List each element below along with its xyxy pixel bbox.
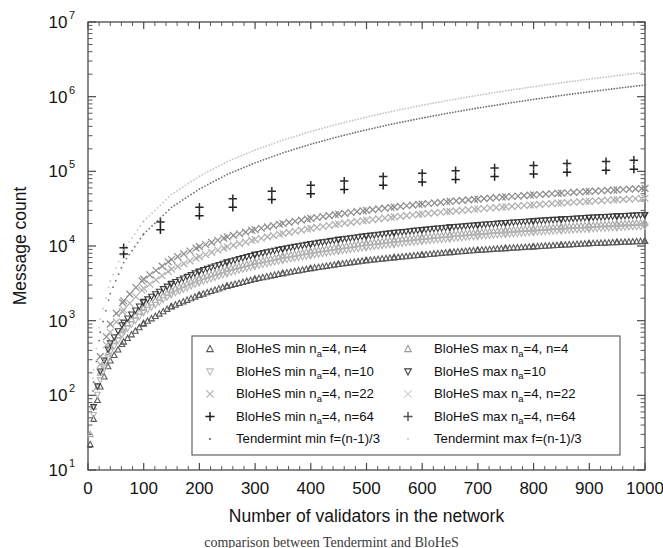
marker-dot xyxy=(639,72,641,74)
marker-dot xyxy=(405,120,407,122)
y-tick-label-group: 104 xyxy=(49,233,76,256)
y-tick-label-mantissa: 10 xyxy=(49,312,68,331)
marker-dot xyxy=(586,91,588,93)
marker-dot xyxy=(572,93,574,95)
marker-dot xyxy=(516,88,518,90)
marker-dot xyxy=(352,132,354,134)
marker-dot xyxy=(315,129,317,131)
marker-dot xyxy=(594,90,596,92)
marker-dot xyxy=(611,75,613,77)
marker-dot xyxy=(115,267,117,269)
legend-label: BloHeS min na=4, n=64 xyxy=(236,409,374,427)
marker-dot xyxy=(137,242,139,244)
marker-dot xyxy=(563,94,565,96)
marker-dot xyxy=(128,254,130,256)
marker-dot xyxy=(246,153,248,155)
marker-dot xyxy=(327,126,329,128)
x-tick-label: 100 xyxy=(130,479,158,498)
marker-dot xyxy=(449,112,451,114)
marker-dot xyxy=(597,90,599,92)
marker-dot xyxy=(276,154,278,156)
marker-dot xyxy=(382,125,384,127)
marker-dot xyxy=(154,210,156,212)
marker-dot xyxy=(572,80,574,82)
marker-dot xyxy=(513,101,515,103)
marker-dot xyxy=(260,160,262,162)
y-tick-label-exponent: 4 xyxy=(69,233,75,245)
marker-dot xyxy=(157,207,159,209)
marker-dot xyxy=(102,321,104,323)
legend-entry-9[interactable]: Tendermint max f=(n-1)/3 xyxy=(407,431,582,446)
marker-dot xyxy=(112,286,114,288)
marker-dot xyxy=(349,120,351,122)
marker-dot xyxy=(619,74,621,76)
marker-dot xyxy=(343,134,345,136)
marker-dot xyxy=(524,87,526,89)
marker-dot xyxy=(583,79,585,81)
marker-dot xyxy=(577,92,579,94)
marker-dot xyxy=(318,141,320,143)
x-tick-label: 900 xyxy=(575,479,603,498)
marker-dot xyxy=(463,97,465,99)
marker-dot xyxy=(215,167,217,169)
marker-dot xyxy=(363,130,365,132)
marker-dot xyxy=(613,88,615,90)
marker-dot xyxy=(221,176,223,178)
marker-dot xyxy=(510,89,512,91)
marker-dot xyxy=(360,130,362,132)
marker-dot xyxy=(391,111,393,113)
marker-dot xyxy=(151,212,153,214)
marker-dot xyxy=(555,83,557,85)
marker-dot xyxy=(176,190,178,192)
marker-dot xyxy=(235,157,237,159)
marker-dot xyxy=(494,92,496,94)
marker-dot xyxy=(105,310,107,312)
marker-dot xyxy=(229,160,231,162)
marker-dot xyxy=(341,135,343,137)
marker-dot xyxy=(346,121,348,123)
marker-dot xyxy=(204,172,206,174)
marker-dot xyxy=(260,147,262,149)
marker-dot xyxy=(613,75,615,77)
marker-dot xyxy=(254,149,256,151)
marker-dot xyxy=(288,137,290,139)
y-tick-label-group: 103 xyxy=(49,308,76,331)
marker-dot xyxy=(179,188,181,190)
marker-dot xyxy=(538,98,540,100)
marker-dot xyxy=(207,184,209,186)
marker-dot xyxy=(131,250,133,252)
marker-dot xyxy=(229,172,231,174)
marker-dot xyxy=(160,204,162,206)
marker-dot xyxy=(171,206,173,208)
marker-dot xyxy=(335,136,337,138)
marker-dot xyxy=(327,139,329,141)
marker-dot xyxy=(552,83,554,85)
marker-dot xyxy=(215,179,217,181)
marker-dot xyxy=(290,149,292,151)
marker-dot xyxy=(179,201,181,203)
marker-dot xyxy=(118,273,120,275)
marker-dot xyxy=(243,167,245,169)
marker-dot xyxy=(102,308,104,310)
marker-dot xyxy=(148,228,150,230)
marker-dot xyxy=(469,96,471,98)
marker-dot xyxy=(346,134,348,136)
marker-dot xyxy=(377,126,379,128)
marker-dot xyxy=(563,81,565,83)
y-tick-label-exponent: 5 xyxy=(69,158,75,170)
marker-dot xyxy=(249,164,251,166)
marker-dot xyxy=(360,118,362,120)
legend-label: BloHeS max na=4, n=4 xyxy=(434,341,568,359)
marker-dot xyxy=(109,293,111,295)
marker-dot xyxy=(480,107,482,109)
marker-dot xyxy=(190,181,192,183)
marker-dot xyxy=(285,138,287,140)
y-tick-label-mantissa: 10 xyxy=(49,13,68,32)
marker-dot xyxy=(126,258,128,260)
marker-dot xyxy=(533,86,535,88)
marker-dot xyxy=(363,117,365,119)
marker-dot xyxy=(173,192,175,194)
marker-dot xyxy=(212,181,214,183)
y-tick-label-exponent: 6 xyxy=(69,84,75,96)
x-tick-label: 200 xyxy=(185,479,213,498)
